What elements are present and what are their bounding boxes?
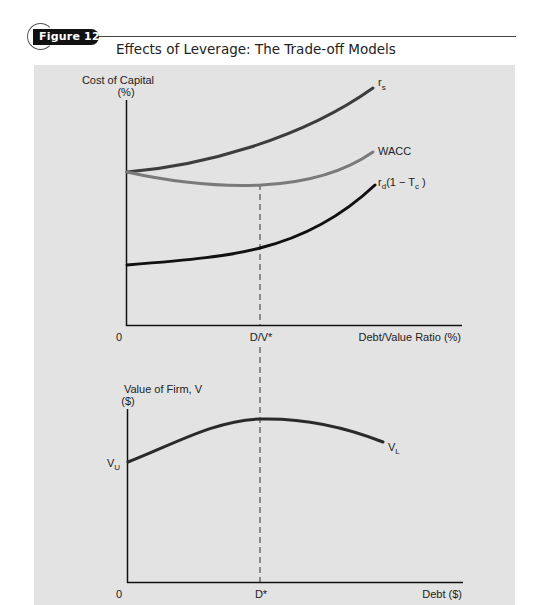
dv-star-label: D/V*: [250, 331, 273, 343]
top-origin-label: 0: [116, 331, 122, 343]
bottom-x-axis-label: Debt ($): [422, 588, 462, 600]
cost-of-capital-chart: Cost of Capital (%) rs WACC rd(1 − Tc ) …: [82, 74, 462, 582]
rs-curve: [127, 88, 373, 172]
rd-label: rd(1 − Tc ): [378, 176, 426, 191]
vl-curve: [128, 419, 383, 462]
top-y-axis-label-line1: Cost of Capital: [82, 74, 154, 86]
top-x-axis-label: Debt/Value Ratio (%): [358, 331, 461, 343]
bottom-origin-label: 0: [116, 588, 122, 600]
top-y-axis-label-line2: (%): [117, 86, 134, 98]
vl-label: VL: [388, 441, 400, 456]
bottom-y-axis-label-line2: ($): [121, 395, 134, 407]
value-of-firm-chart: Value of Firm, V ($) VU VL 0 D* Debt ($): [107, 383, 463, 600]
rs-label: rs: [378, 76, 386, 92]
wacc-label: WACC: [378, 145, 411, 157]
bottom-y-axis-label-line1: Value of Firm, V: [124, 383, 203, 395]
rd-after-tax-curve: [127, 185, 375, 265]
d-star-label: D*: [255, 588, 268, 600]
vu-label: VU: [107, 457, 120, 472]
charts-svg: Cost of Capital (%) rs WACC rd(1 − Tc ) …: [0, 0, 539, 605]
